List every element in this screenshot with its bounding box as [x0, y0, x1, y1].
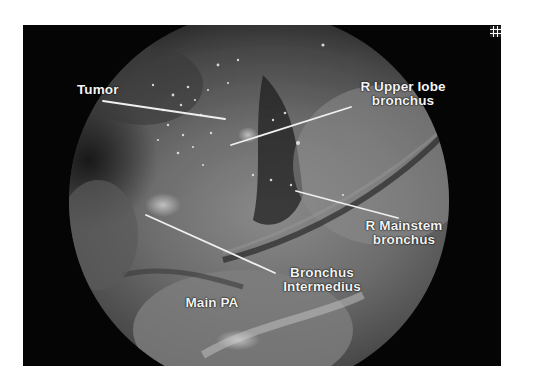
label-r-upper-lobe-bronchus: R Upper lobe bronchus	[354, 80, 452, 108]
label-r-mainstem-line1: R Mainstem	[359, 219, 449, 233]
label-r-mainstem-line2: bronchus	[359, 233, 449, 247]
endoscopic-view	[23, 25, 501, 366]
label-r-upper-lobe-line1: R Upper lobe	[354, 80, 452, 94]
grid-icon	[490, 26, 501, 37]
label-r-upper-lobe-line2: bronchus	[354, 94, 452, 108]
annotated-surgical-figure: Tumor R Upper lobe bronchus R Mainstem b…	[0, 0, 538, 383]
label-r-mainstem-bronchus: R Mainstem bronchus	[359, 219, 449, 247]
label-bronchus-intermedius-line1: Bronchus	[276, 266, 368, 280]
image-frame	[23, 25, 501, 366]
label-bronchus-intermedius: Bronchus Intermedius	[276, 266, 368, 294]
label-tumor-text: Tumor	[77, 82, 119, 97]
label-main-pa-text: Main PA	[186, 295, 239, 310]
label-main-pa: Main PA	[181, 296, 243, 310]
label-tumor: Tumor	[77, 83, 119, 97]
label-bronchus-intermedius-line2: Intermedius	[276, 280, 368, 294]
